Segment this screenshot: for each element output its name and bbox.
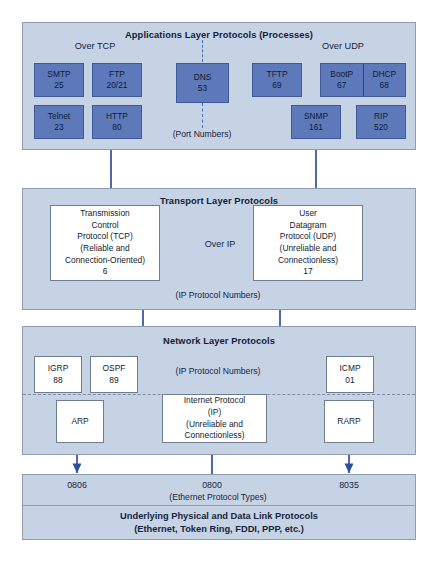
application-layer-title: Applications Layer Protocols (Processes) [23, 30, 415, 40]
protocol-box-http[interactable]: HTTP 80 [92, 105, 142, 139]
protocol-box-bootp[interactable]: BootP 67 [321, 64, 364, 96]
ethernet-type-ip: 0800 [182, 480, 242, 490]
transport-box-tcp[interactable]: Transmission Control Protocol (TCP) (Rel… [50, 205, 160, 281]
rarp-name: RARP [337, 416, 360, 428]
protocol-name-rip: RIP [374, 111, 388, 122]
dns-dashed-line-bottom [202, 103, 203, 128]
udp-line-4: (Unreliable and [280, 243, 337, 255]
protocol-box-dns[interactable]: DNS 53 [176, 63, 229, 103]
udp-protocol-number: 17 [303, 266, 312, 278]
ip-line-3: (Unreliable and [186, 419, 243, 431]
ip-line-1: Internet Protocol [184, 395, 245, 407]
protocol-stack-diagram: Applications Layer Protocols (Processes)… [0, 0, 437, 573]
protocol-name-bootp: BootP [330, 69, 353, 80]
udp-line-2: Datagram [290, 220, 327, 232]
protocol-name-dhcp: DHCP [372, 69, 396, 80]
protocol-box-dhcp[interactable]: DHCP 68 [364, 64, 406, 96]
protocol-name-snmp: SNMP [304, 111, 328, 122]
protocol-port-tftp: 69 [272, 80, 281, 91]
protocol-port-rip: 520 [374, 122, 388, 133]
protocol-port-bootp: 67 [337, 80, 346, 91]
protocol-name-telnet: Telnet [48, 111, 70, 122]
protocol-box-telnet[interactable]: Telnet 23 [34, 105, 84, 139]
protocol-box-rip[interactable]: RIP 520 [356, 105, 406, 139]
ip-line-2: (IP) [208, 407, 222, 419]
udp-line-3: Protocol (UDP) [280, 231, 336, 243]
protocol-port-ftp: 20/21 [107, 80, 128, 91]
udp-line-5: Connectionless) [278, 255, 338, 267]
igrp-number: 88 [53, 375, 62, 387]
network-box-rarp[interactable]: RARP [324, 400, 374, 443]
tcp-line-5: Connection-Oriented) [65, 255, 145, 267]
network-box-igrp[interactable]: IGRP 88 [34, 356, 82, 393]
protocol-name-ftp: FTP [109, 69, 125, 80]
ospf-name: OSPF [103, 363, 126, 375]
protocol-box-bootp-dhcp[interactable]: BootP 67 DHCP 68 [320, 63, 406, 97]
over-tcp-label: Over TCP [40, 41, 150, 51]
link-layer-internal-divider [23, 505, 415, 506]
protocol-port-http: 80 [112, 122, 121, 133]
arp-name: ARP [71, 416, 88, 428]
over-ip-label: Over IP [180, 239, 260, 249]
protocol-port-snmp: 161 [309, 122, 323, 133]
protocol-port-telnet: 23 [54, 122, 63, 133]
dns-dashed-line-top [202, 40, 203, 62]
protocol-name-dns: DNS [194, 72, 212, 83]
protocol-name-http: HTTP [106, 111, 128, 122]
network-box-ip[interactable]: Internet Protocol (IP) (Unreliable and C… [162, 394, 267, 443]
icmp-name: ICMP [340, 363, 361, 375]
ospf-number: 89 [109, 375, 118, 387]
protocol-box-snmp[interactable]: SNMP 161 [291, 105, 341, 139]
ethernet-protocol-types-label: (Ethernet Protocol Types) [138, 492, 298, 502]
link-layer-title-line-2: (Ethernet, Token Ring, FDDI, PPP, etc.) [22, 524, 416, 534]
icmp-number: 01 [345, 375, 354, 387]
port-numbers-label: (Port Numbers) [152, 129, 252, 139]
protocol-port-smtp: 25 [54, 80, 63, 91]
over-udp-label: Over UDP [288, 41, 398, 51]
network-layer-title: Network Layer Protocols [23, 336, 415, 346]
protocol-box-tftp[interactable]: TFTP 69 [252, 63, 302, 97]
protocol-box-smtp[interactable]: SMTP 25 [34, 63, 84, 97]
udp-line-1: User [299, 208, 317, 220]
network-box-icmp[interactable]: ICMP 01 [326, 356, 374, 393]
transport-ip-protocol-numbers-label: (IP Protocol Numbers) [148, 290, 288, 300]
link-layer-title-line-1: Underlying Physical and Data Link Protoc… [22, 511, 416, 521]
tcp-line-2: Control [92, 220, 119, 232]
protocol-port-dhcp: 68 [380, 80, 389, 91]
protocol-box-ftp[interactable]: FTP 20/21 [92, 63, 142, 97]
ip-line-4: Connectionless) [184, 430, 244, 442]
ethernet-type-rarp: 8035 [319, 480, 379, 490]
protocol-name-smtp: SMTP [47, 69, 70, 80]
tcp-line-4: (Reliable and [80, 243, 129, 255]
igrp-name: IGRP [48, 363, 68, 375]
tcp-protocol-number: 6 [103, 266, 108, 278]
network-ip-protocol-numbers-label: (IP Protocol Numbers) [148, 366, 288, 376]
tcp-line-3: Protocol (TCP) [77, 231, 132, 243]
ethernet-type-arp: 0806 [47, 480, 107, 490]
protocol-port-dns: 53 [198, 83, 207, 94]
network-box-ospf[interactable]: OSPF 89 [90, 356, 138, 393]
transport-box-udp[interactable]: User Datagram Protocol (UDP) (Unreliable… [253, 205, 363, 281]
tcp-line-1: Transmission [80, 208, 130, 220]
network-box-arp[interactable]: ARP [56, 400, 104, 443]
protocol-name-tftp: TFTP [267, 69, 288, 80]
